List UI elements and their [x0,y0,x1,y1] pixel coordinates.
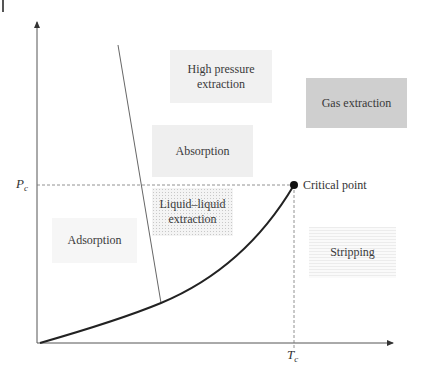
region-stripping: Stripping [309,227,396,278]
tc-subscript: c [294,354,298,364]
region-label: Adsorption [68,233,122,248]
region-label: Absorption [176,144,230,159]
region-liquid-liquid-extraction: Liquid–liquid extraction [152,188,233,236]
pc-symbol: P [16,176,24,191]
critical-point-marker [290,181,298,189]
region-adsorption: Adsorption [52,218,137,263]
region-gas-extraction: Gas extraction [306,78,407,128]
pc-subscript: c [24,183,28,193]
tc-label: Tc [287,347,298,364]
region-high-pressure-extraction: High pressure extraction [170,50,272,103]
region-label: Gas extraction [322,96,392,111]
region-label-line2: extraction [160,212,226,227]
region-label: Stripping [330,245,375,260]
region-label-line2: extraction [188,77,255,92]
critical-point-label: Critical point [303,178,367,193]
region-absorption: Absorption [152,125,253,177]
pc-label: Pc [16,176,28,193]
region-label-line1: High pressure [188,62,255,77]
region-label-line1: Liquid–liquid [160,197,226,212]
